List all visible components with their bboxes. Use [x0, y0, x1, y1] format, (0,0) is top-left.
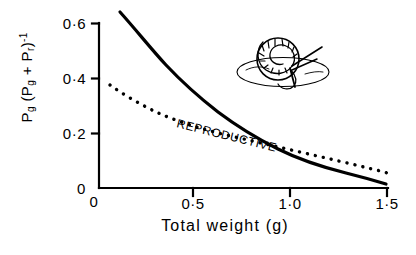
- reproductive-curve-label: REPRODUCTIVE: [175, 116, 278, 154]
- figure-container: REPRODUCTIVE: [0, 0, 416, 255]
- y-axis-title: Pg (Pg + Pr)-1: [18, 2, 37, 152]
- x-tick-label-0: 0: [82, 193, 106, 210]
- snail-head-stalk: [290, 68, 295, 87]
- x-tick-label-1-5: 1·5: [365, 195, 409, 212]
- y-axis-title-sub-g2: g: [25, 80, 36, 86]
- x-tick-label-1-0: 1·0: [268, 195, 312, 212]
- y-axis-title-plus: + P: [18, 51, 35, 80]
- series-growth-line: [120, 12, 386, 184]
- y-axis-title-sub-r: r: [25, 47, 36, 51]
- x-tick-label-0-5: 0·5: [171, 195, 215, 212]
- y-axis-title-pg: P: [18, 112, 35, 122]
- snail-illustration: [237, 38, 329, 89]
- y-axis-title-sub-g1: g: [25, 106, 36, 112]
- y-axis-title-open: (P: [18, 86, 35, 106]
- y-tick-label-0-6: 0·6: [40, 15, 86, 32]
- y-axis-title-exponent: -1: [18, 32, 29, 42]
- y-tick-label-0-4: 0·4: [40, 70, 86, 87]
- series-reproductive-line: [110, 85, 387, 173]
- x-axis-title: Total weight (g): [110, 217, 340, 235]
- y-axis-title-close: ): [18, 42, 35, 47]
- y-tick-label-0-2: 0·2: [40, 125, 86, 142]
